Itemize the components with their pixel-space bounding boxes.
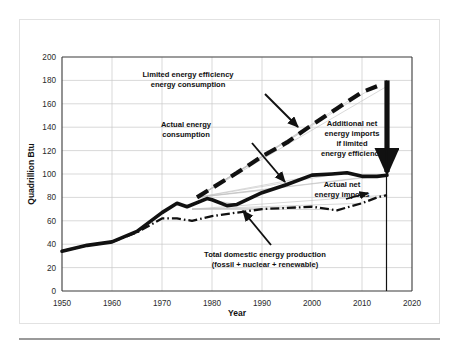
anno-actual-line-1: Actual energy xyxy=(161,120,212,129)
x-tick-label: 1950 xyxy=(53,299,72,308)
x-tick-label: 2020 xyxy=(403,299,422,308)
annotation-additional-imports: Additional net energy imports if limited… xyxy=(321,119,384,158)
x-tick-label: 2010 xyxy=(353,299,372,308)
y-tick-label: 120 xyxy=(42,147,56,156)
anno-netimports-line-1: Actual net xyxy=(324,180,361,189)
anno-additional-line-4: energy efficiency xyxy=(321,149,384,158)
y-tick-label: 20 xyxy=(47,264,57,273)
anno-limited-line-2: energy consumption xyxy=(151,80,226,89)
x-tick-label: 1990 xyxy=(253,299,272,308)
energy-chart: 020406080100120140160180200 195019601970… xyxy=(0,0,460,348)
anno-production-line-1: Total domestic energy production xyxy=(204,250,326,259)
annotation-limited-efficiency: Limited energy efficiency energy consump… xyxy=(142,70,234,89)
anno-additional-line-2: energy imports xyxy=(325,129,380,138)
y-tick-label: 80 xyxy=(47,193,57,202)
x-tick-label: 2000 xyxy=(303,299,322,308)
leader-domestic-production xyxy=(243,211,271,245)
anno-production-line-2: (fossil + nuclear + renewable) xyxy=(212,260,319,269)
y-axis-ticks: 020406080100120140160180200 xyxy=(42,53,56,296)
anno-netimports-line-2: energy imports xyxy=(315,190,370,199)
annotation-actual-net-imports: Actual net energy imports xyxy=(315,180,370,199)
y-tick-label: 180 xyxy=(42,76,56,85)
x-axis-title: Year xyxy=(228,308,247,318)
x-axis-ticks: 19501960197019801990200020102020 xyxy=(53,299,422,308)
annotation-actual-consumption: Actual energy consumption xyxy=(161,120,212,139)
y-tick-label: 60 xyxy=(47,217,57,226)
x-tick-label: 1960 xyxy=(103,299,122,308)
leader-limited-efficiency xyxy=(265,94,298,127)
y-axis-title: Quadrillion Btu xyxy=(26,143,36,204)
anno-additional-line-1: Additional net xyxy=(327,119,378,128)
x-tick-label: 1980 xyxy=(203,299,222,308)
anno-actual-line-2: consumption xyxy=(162,130,210,139)
y-tick-label: 0 xyxy=(51,287,56,296)
anno-additional-line-3: if limited xyxy=(336,139,368,148)
y-tick-label: 140 xyxy=(42,123,56,132)
anno-limited-line-1: Limited energy efficiency xyxy=(142,70,234,79)
x-tick-label: 1970 xyxy=(153,299,172,308)
additional-imports-gap-arrow xyxy=(387,80,388,291)
y-tick-label: 40 xyxy=(47,240,57,249)
y-tick-label: 160 xyxy=(42,100,56,109)
y-tick-label: 200 xyxy=(42,53,56,62)
annotation-domestic-production: Total domestic energy production (fossil… xyxy=(204,250,326,269)
chart-figure: 020406080100120140160180200 195019601970… xyxy=(0,0,460,348)
y-tick-label: 100 xyxy=(42,170,56,179)
